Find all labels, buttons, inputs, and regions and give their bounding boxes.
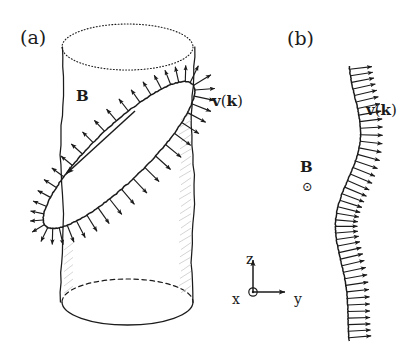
velocity-label-b-vector-v: v bbox=[366, 101, 375, 119]
field-out-of-page-icon: ⊙ bbox=[302, 180, 313, 193]
velocity-arrows-panel-a bbox=[30, 65, 215, 244]
axis-label-x: x bbox=[232, 292, 240, 306]
orbit-curve-panel-a bbox=[43, 81, 195, 228]
velocity-label-panel-b: v(k) bbox=[366, 103, 397, 118]
velocity-label-a-vector-k: k bbox=[227, 92, 237, 110]
velocity-label-a-vector-v: v bbox=[212, 92, 221, 110]
velocity-label-panel-a: v(k) bbox=[212, 94, 243, 109]
panel-label-a: (a) bbox=[20, 28, 46, 47]
axis-label-y: y bbox=[294, 292, 302, 306]
magnetic-field-label-panel-b: B bbox=[300, 160, 313, 175]
magnetic-field-label-panel-a: B bbox=[76, 89, 89, 104]
cylinder-fermi-surface bbox=[60, 24, 195, 325]
orbit-curve-panel-b bbox=[335, 66, 361, 341]
velocity-label-a-paren-close: ) bbox=[237, 92, 243, 110]
panel-label-b: (b) bbox=[287, 29, 314, 48]
axes-triad bbox=[249, 260, 285, 296]
velocity-label-b-vector-k: k bbox=[381, 101, 391, 119]
figure-canvas: (a) B v(k) (b) B ⊙ v(k) z y x ⊙ bbox=[0, 0, 411, 359]
velocity-label-b-paren-close: ) bbox=[391, 101, 397, 119]
figure-vector-art bbox=[0, 0, 411, 359]
axis-label-z: z bbox=[246, 252, 253, 266]
magnetic-field-line-panel-a bbox=[66, 111, 135, 174]
